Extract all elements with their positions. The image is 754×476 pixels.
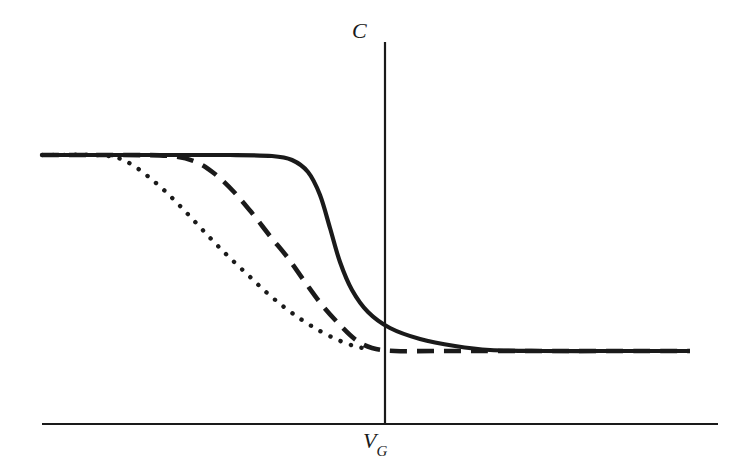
x-axis-label-main: V — [363, 428, 376, 453]
x-axis-label-subscript: G — [376, 443, 387, 459]
y-axis-label: C — [352, 18, 367, 44]
cv-characteristic-figure: C VG — [0, 0, 754, 476]
plot-canvas — [0, 0, 754, 476]
curve-dotted — [42, 155, 368, 349]
x-axis-label: VG — [363, 428, 387, 457]
curve-solid — [42, 155, 690, 351]
curve-dashed — [42, 155, 690, 351]
